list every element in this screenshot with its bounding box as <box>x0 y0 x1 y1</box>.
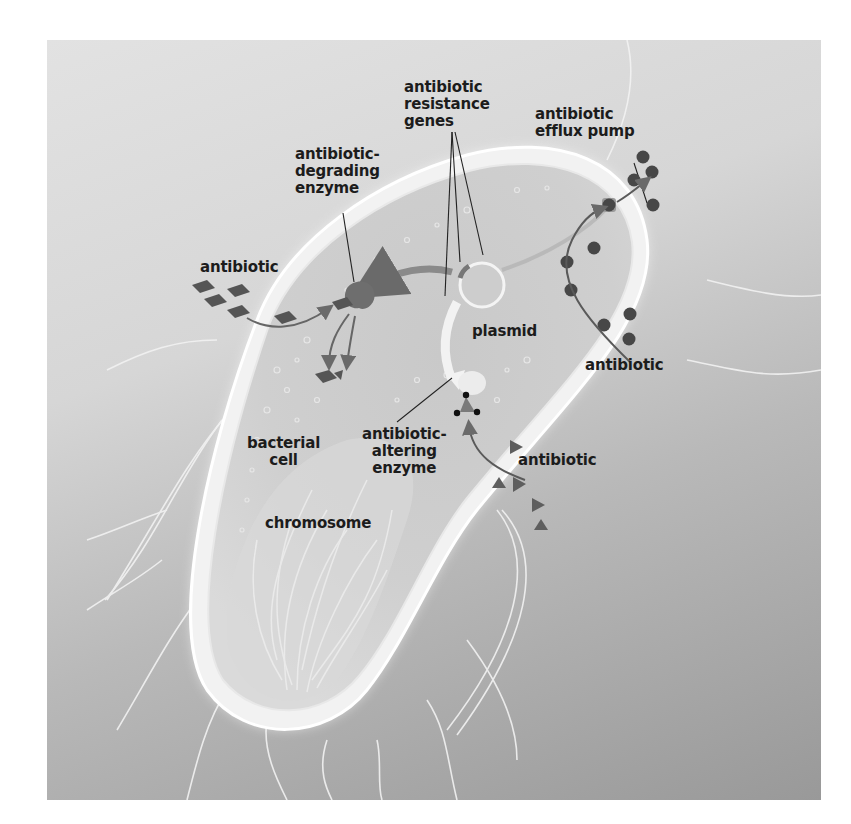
label-antibiotic-left: antibiotic <box>200 259 279 276</box>
diagram-frame: antibiotic resistance genes antibiotic e… <box>47 40 821 800</box>
label-efflux-pump: antibiotic efflux pump <box>535 106 635 140</box>
altering-enzyme <box>458 371 486 395</box>
label-altering-enzyme: antibiotic- altering enzyme <box>362 426 447 477</box>
label-plasmid: plasmid <box>472 323 537 340</box>
cell-illustration <box>47 40 821 800</box>
label-resistance-genes: antibiotic resistance genes <box>404 79 490 130</box>
label-bacterial-cell: bacterial cell <box>247 435 320 469</box>
label-degrading-enzyme: antibiotic- degrading enzyme <box>295 146 380 197</box>
label-antibiotic-bottom: antibiotic <box>518 452 597 469</box>
label-chromosome: chromosome <box>265 515 371 532</box>
label-antibiotic-right: antibiotic <box>585 357 664 374</box>
